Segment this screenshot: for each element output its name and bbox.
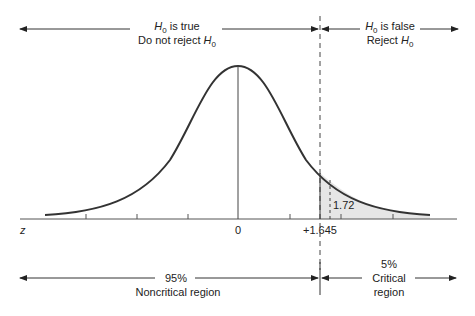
noncritical-percent: 95% [165, 272, 187, 284]
critical-region-label-1: Critical [372, 272, 406, 284]
critical-region-label-2: region [374, 286, 405, 298]
critical-value-label: +1.645 [303, 224, 337, 236]
critical-region-shading [320, 173, 430, 219]
zero-label: 0 [235, 224, 241, 236]
test-statistic-label: 1.72 [333, 199, 354, 211]
do-not-reject-label: Do not reject H0 [138, 34, 216, 49]
hypothesis-test-diagram: z 0 +1.645 1.72 H0 is true Do not reject… [0, 0, 475, 316]
critical-percent: 5% [381, 258, 397, 270]
reject-label: Reject H0 [367, 34, 414, 49]
h0-false-label: H0 is false [365, 20, 415, 35]
h0-true-label: H0 is true [154, 20, 199, 35]
noncritical-region-label: Noncritical region [136, 286, 221, 298]
z-label: z [19, 224, 26, 236]
